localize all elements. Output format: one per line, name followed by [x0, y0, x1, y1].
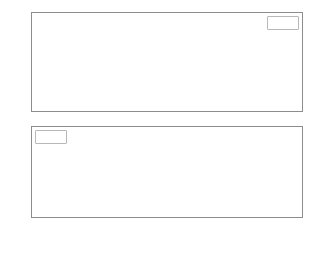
bottom-legend[interactable] [35, 130, 67, 144]
top-plot-area [32, 13, 302, 111]
top-axes-frame [31, 12, 303, 112]
legend-color-patch-0 [271, 19, 288, 27]
top-legend[interactable] [267, 16, 299, 30]
bottom-histogram-bars [32, 127, 302, 217]
legend-color-patch-1 [39, 133, 56, 141]
bottom-plot-area [32, 127, 302, 217]
bottom-axes-frame [31, 126, 303, 218]
top-histogram-panel [31, 12, 303, 112]
histogram-figure [0, 0, 316, 258]
bottom-histogram-panel [31, 126, 303, 218]
top-histogram-bars [32, 13, 302, 111]
